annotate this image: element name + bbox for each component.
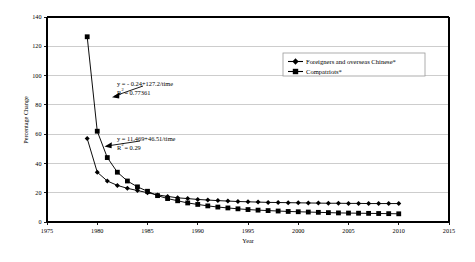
y-tick-label: 40 [35, 160, 41, 167]
data-point-marker [215, 205, 220, 210]
data-point-marker [155, 193, 160, 198]
data-point-marker [266, 208, 271, 213]
data-point-marker [95, 129, 100, 134]
legend-label-compatriots: Compatriots* [306, 68, 342, 75]
data-point-marker [226, 206, 231, 211]
data-point-marker [125, 179, 130, 184]
data-point-marker [105, 155, 110, 160]
data-point-marker [115, 170, 120, 175]
x-tick-label: 2005 [342, 227, 354, 234]
data-point-marker [145, 189, 150, 194]
y-tick-label: 140 [32, 13, 41, 20]
annotation-rsq-value-1: = 0.77361 [124, 89, 150, 96]
data-point-marker [386, 211, 391, 216]
data-point-marker [205, 203, 210, 208]
x-tick-label: 1990 [192, 227, 204, 234]
y-tick-label: 60 [35, 130, 41, 137]
chart-svg: 020406080100120140 197519801985199019952… [0, 0, 475, 262]
y-tick-label: 100 [32, 72, 41, 79]
data-point-marker [185, 201, 190, 206]
data-point-marker [366, 211, 371, 216]
x-tick-label: 2010 [393, 227, 405, 234]
data-point-marker [286, 209, 291, 214]
data-point-marker [165, 196, 170, 201]
x-tick-label: 2015 [443, 227, 455, 234]
data-point-marker [85, 34, 90, 39]
y-tick-label: 20 [35, 189, 41, 196]
legend-marker-square [293, 69, 298, 74]
data-point-marker [296, 209, 301, 214]
x-tick-label: 1975 [41, 227, 53, 234]
data-point-marker [326, 210, 331, 215]
x-tick-label: 1985 [141, 227, 153, 234]
data-point-marker [276, 209, 281, 214]
x-tick-label: 1980 [91, 227, 103, 234]
data-point-marker [175, 198, 180, 203]
chart-background [0, 0, 475, 262]
annotation-rsq-value-2: = 0.29 [124, 144, 140, 151]
x-axis-title: Year [242, 237, 253, 244]
chart-container: 020406080100120140 197519801985199019952… [0, 0, 475, 262]
data-point-marker [256, 208, 261, 213]
data-point-marker [356, 211, 361, 216]
data-point-marker [306, 210, 311, 215]
y-tick-label: 0 [38, 218, 41, 225]
data-point-marker [346, 211, 351, 216]
y-tick-label: 80 [35, 101, 41, 108]
x-tick-label: 1995 [242, 227, 254, 234]
data-point-marker [336, 211, 341, 216]
data-point-marker [135, 184, 140, 189]
legend-label-foreigners: Foreigners and overseas Chinese* [306, 58, 396, 65]
chart-legend: Foreigners and overseas Chinese* Compatr… [283, 53, 425, 76]
data-point-marker [246, 207, 251, 212]
annotation-equation-1: y = - 0.24+127.2/time [117, 80, 173, 87]
annotation-equation-2: y = 11.469+46.51/time [117, 135, 176, 142]
data-point-marker [316, 210, 321, 215]
data-point-marker [195, 202, 200, 207]
y-tick-label: 120 [32, 42, 41, 49]
data-point-marker [396, 211, 401, 216]
y-axis-title: Percentage Change [22, 96, 29, 144]
x-tick-label: 2000 [292, 227, 304, 234]
legend-item-compatriots: Compatriots* [288, 68, 342, 75]
data-point-marker [236, 206, 241, 211]
data-point-marker [376, 211, 381, 216]
